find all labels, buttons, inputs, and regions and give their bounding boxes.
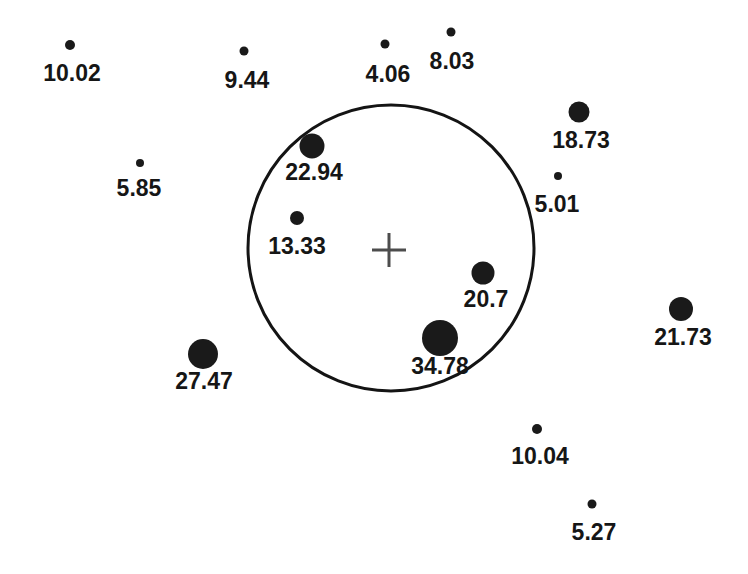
data-point xyxy=(136,159,144,167)
data-point-label: 10.02 xyxy=(43,60,101,86)
data-point xyxy=(472,262,495,285)
data-point-label: 34.78 xyxy=(411,353,469,379)
data-point xyxy=(381,40,390,49)
data-point xyxy=(188,339,218,369)
data-point-label: 5.85 xyxy=(117,175,162,201)
data-point xyxy=(290,211,304,225)
data-point xyxy=(240,47,249,56)
data-point xyxy=(569,102,590,123)
data-point xyxy=(532,424,542,434)
bubble-figure: 10.029.444.068.0318.735.8522.945.0113.33… xyxy=(0,0,748,574)
data-point-label: 22.94 xyxy=(285,159,343,185)
bubble-plot: 10.029.444.068.0318.735.8522.945.0113.33… xyxy=(0,0,748,574)
data-point xyxy=(422,320,458,356)
data-point xyxy=(447,28,456,37)
data-point-label: 18.73 xyxy=(552,127,610,153)
data-point xyxy=(588,500,597,509)
data-point-label: 10.04 xyxy=(511,443,569,469)
data-point-label: 4.06 xyxy=(366,61,411,87)
data-point-label: 21.73 xyxy=(654,324,712,350)
data-point xyxy=(554,172,562,180)
data-point-label: 20.7 xyxy=(464,286,509,312)
data-point-label: 13.33 xyxy=(268,233,326,259)
data-point xyxy=(65,40,75,50)
data-point xyxy=(300,134,325,159)
data-point-label: 5.01 xyxy=(535,191,580,217)
data-point-label: 5.27 xyxy=(572,519,617,545)
data-point xyxy=(669,297,693,321)
data-point-label: 8.03 xyxy=(430,48,475,74)
data-point-label: 9.44 xyxy=(225,67,270,93)
data-point-label: 27.47 xyxy=(175,368,233,394)
